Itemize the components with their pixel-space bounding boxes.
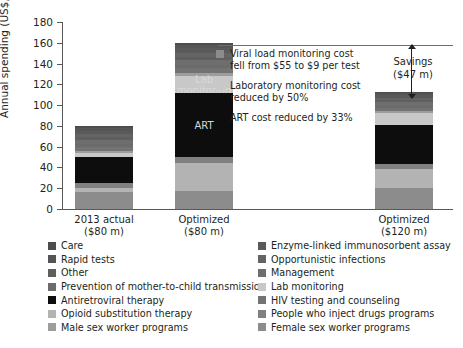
x-label-line-1: Optimized <box>150 214 258 226</box>
legend-column-left: CareRapid testsOtherPrevention of mother… <box>48 239 263 334</box>
legend-item[interactable]: Care <box>48 239 263 253</box>
legend-item-label: Male sex worker programs <box>61 322 188 333</box>
legend-color-swatch <box>48 255 56 263</box>
y-tick-label: 160 <box>33 38 53 48</box>
legend-item[interactable]: People who inject drugs programs <box>258 307 463 321</box>
legend-color-swatch <box>48 323 56 331</box>
legend-color-swatch <box>258 269 266 277</box>
legend-item[interactable]: Rapid tests <box>48 253 263 267</box>
y-tick-label: 60 <box>40 142 53 152</box>
legend: CareRapid testsOtherPrevention of mother… <box>0 239 463 344</box>
y-tick-label: 120 <box>33 79 53 89</box>
note-color-swatch <box>216 114 224 122</box>
y-tick-label: 180 <box>33 17 53 27</box>
legend-item-label: Opportunistic infections <box>271 254 386 265</box>
note-line-1: Laboratory monitoring cost <box>230 80 361 92</box>
annotation-notes: Viral load monitoring costfell from $55 … <box>216 48 406 133</box>
x-label-line-1: 2013 actual <box>50 214 158 226</box>
legend-item-label: Management <box>271 267 334 278</box>
legend-item[interactable]: Enzyme-linked immunosorbent assay <box>258 239 463 253</box>
y-tick-label: 40 <box>40 162 53 172</box>
legend-color-swatch <box>48 242 56 250</box>
legend-item[interactable]: Opportunistic infections <box>258 253 463 267</box>
y-tick-label: 100 <box>33 100 53 110</box>
x-axis-label-1: 2013 actual($80 m) <box>50 214 158 238</box>
legend-item-label: Rapid tests <box>61 254 115 265</box>
note-line-2: reduced by 50% <box>230 92 361 104</box>
note-line-1: Viral load monitoring cost <box>230 48 360 60</box>
arrow-down-icon <box>408 94 416 99</box>
bar-segment <box>175 163 233 191</box>
note-text: Viral load monitoring costfell from $55 … <box>230 48 360 71</box>
y-tick-label: 80 <box>40 121 53 131</box>
legend-color-swatch <box>258 310 266 318</box>
reference-line <box>218 45 453 46</box>
note-line-2: fell from $55 to $9 per test <box>230 60 360 72</box>
note-line-1: ART cost reduced by 33% <box>230 112 353 124</box>
legend-item-label: Lab monitoring <box>271 281 344 292</box>
bar-segment <box>75 192 133 209</box>
legend-item[interactable]: HIV testing and counseling <box>258 293 463 307</box>
legend-item-label: People who inject drugs programs <box>271 308 434 319</box>
legend-color-swatch <box>258 255 266 263</box>
legend-color-swatch <box>48 269 56 277</box>
legend-color-swatch <box>258 323 266 331</box>
note-color-swatch <box>216 82 224 90</box>
annotation-note: Viral load monitoring costfell from $55 … <box>216 48 406 71</box>
bar-segment <box>375 188 433 209</box>
x-label-line-2: ($80 m) <box>150 226 258 238</box>
legend-column-right: Enzyme-linked immunosorbent assayOpportu… <box>258 239 463 334</box>
legend-color-swatch <box>258 296 266 304</box>
y-tick-label: 140 <box>33 59 53 69</box>
y-tick-label: 20 <box>40 183 53 193</box>
legend-item[interactable]: Opioid substitution therapy <box>48 307 263 321</box>
bar-segment <box>375 169 433 188</box>
legend-item-label: Care <box>61 240 83 251</box>
bar-segment <box>75 157 133 183</box>
x-label-line-1: Optimized <box>350 214 458 226</box>
x-label-line-2: ($80 m) <box>50 226 158 238</box>
legend-color-swatch <box>48 283 56 291</box>
x-label-line-2: ($120 m) <box>350 226 458 238</box>
bar-1 <box>75 126 133 209</box>
legend-item-label: HIV testing and counseling <box>271 295 400 306</box>
legend-item-label: Other <box>61 267 88 278</box>
annotation-note: ART cost reduced by 33% <box>216 112 406 124</box>
annotation-note: Laboratory monitoring costreduced by 50% <box>216 80 406 103</box>
legend-color-swatch <box>258 242 266 250</box>
note-text: Laboratory monitoring costreduced by 50% <box>230 80 361 103</box>
legend-item[interactable]: Female sex worker programs <box>258 321 463 335</box>
legend-item[interactable]: Prevention of mother-to-child transmissi… <box>48 280 263 294</box>
x-axis-line <box>62 209 453 210</box>
legend-item-label: Prevention of mother-to-child transmissi… <box>61 281 266 292</box>
note-color-swatch <box>216 50 224 58</box>
y-tick-label: 0 <box>46 204 53 214</box>
legend-item[interactable]: Management <box>258 266 463 280</box>
chart-figure: Annual spending (US$, million) 180160140… <box>0 0 463 348</box>
x-axis-label-3: Optimized($120 m) <box>350 214 458 238</box>
legend-item[interactable]: Lab monitoring <box>258 280 463 294</box>
legend-color-swatch <box>48 310 56 318</box>
legend-item[interactable]: Male sex worker programs <box>48 321 263 335</box>
arrow-up-icon <box>408 44 416 49</box>
legend-item-label: Opioid substitution therapy <box>61 308 192 319</box>
legend-item-label: Antiretroviral therapy <box>61 295 164 306</box>
legend-item[interactable]: Other <box>48 266 263 280</box>
y-axis: 180160140120100806040200 <box>0 0 62 210</box>
legend-color-swatch <box>258 283 266 291</box>
art-label: ART <box>194 120 213 131</box>
legend-item[interactable]: Antiretroviral therapy <box>48 293 263 307</box>
x-axis-label-2: Optimized($80 m) <box>150 214 258 238</box>
bar-segment <box>175 191 233 209</box>
legend-color-swatch <box>48 296 56 304</box>
note-text: ART cost reduced by 33% <box>230 112 353 124</box>
legend-item-label: Female sex worker programs <box>271 322 410 333</box>
legend-item-label: Enzyme-linked immunosorbent assay <box>271 240 451 251</box>
